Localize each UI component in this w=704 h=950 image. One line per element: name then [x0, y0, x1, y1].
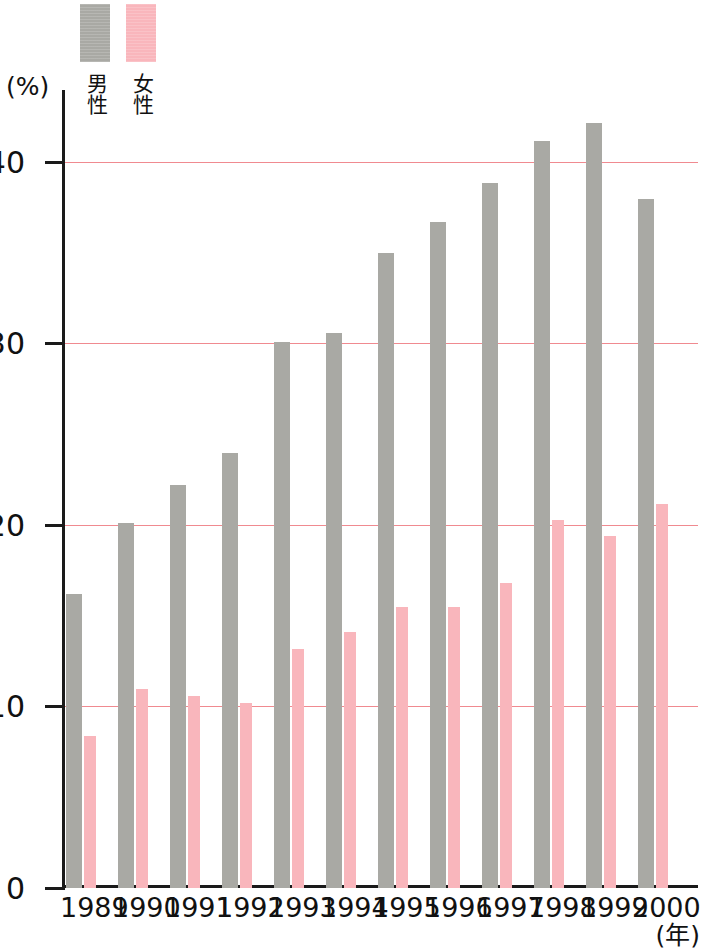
y-axis-unit-label: (%) — [6, 72, 49, 101]
bar-female-1996 — [448, 607, 460, 888]
bar-male-1995 — [378, 253, 394, 888]
x-tick-label-1998: 1998 — [528, 892, 584, 923]
bar-male-1992 — [222, 453, 238, 888]
bar-group-1998: 1998 — [532, 90, 584, 888]
bar-group-1999: 1999 — [584, 90, 636, 888]
x-tick-label-1996: 1996 — [424, 892, 480, 923]
bar-female-1999 — [604, 536, 616, 888]
bar-female-1990 — [136, 689, 148, 889]
bar-group-1989: 1989 — [64, 90, 116, 888]
bar-male-1994 — [326, 333, 342, 888]
bar-female-2000 — [656, 504, 668, 888]
y-tick-label-20: 20 — [0, 507, 25, 542]
bar-female-1995 — [396, 607, 408, 888]
bar-group-1991: 1991 — [168, 90, 220, 888]
x-tick-label-1993: 1993 — [268, 892, 324, 923]
bar-chart: 男性 女性 (%) (年) 010203040 1989199019911992… — [0, 0, 704, 950]
female-swatch-icon — [126, 4, 156, 62]
x-tick-label-1989: 1989 — [60, 892, 116, 923]
male-swatch-icon — [80, 4, 110, 62]
y-tick-label-0: 0 — [6, 870, 25, 905]
bar-group-1995: 1995 — [376, 90, 428, 888]
y-tick-label-10: 10 — [0, 689, 25, 724]
bar-male-1989 — [66, 594, 82, 888]
bar-group-1992: 1992 — [220, 90, 272, 888]
x-tick-label-1995: 1995 — [372, 892, 428, 923]
bar-male-1998 — [534, 141, 550, 888]
bar-group-2000: 2000 — [636, 90, 688, 888]
x-tick-label-1992: 1992 — [216, 892, 272, 923]
bars-layer: 1989199019911992199319941995199619971998… — [62, 90, 698, 888]
x-tick-label-2000: 2000 — [632, 892, 688, 923]
bar-female-1991 — [188, 696, 200, 888]
bar-male-1999 — [586, 123, 602, 888]
bar-group-1997: 1997 — [480, 90, 532, 888]
x-tick-label-1994: 1994 — [320, 892, 376, 923]
bar-male-1993 — [274, 342, 290, 888]
plot-area: 010203040 198919901991199219931994199519… — [62, 90, 698, 888]
bar-female-1989 — [84, 736, 96, 888]
y-tick-label-40: 40 — [0, 145, 25, 180]
bar-female-1993 — [292, 649, 304, 888]
bar-female-1998 — [552, 520, 564, 888]
bar-male-1996 — [430, 222, 446, 888]
y-tick-label-30: 30 — [0, 326, 25, 361]
x-tick-label-1991: 1991 — [164, 892, 220, 923]
bar-female-1997 — [500, 583, 512, 888]
bar-female-1994 — [344, 632, 356, 888]
bar-male-1991 — [170, 485, 186, 888]
x-tick-label-1990: 1990 — [112, 892, 168, 923]
bar-female-1992 — [240, 703, 252, 888]
bar-male-2000 — [638, 199, 654, 888]
bar-group-1996: 1996 — [428, 90, 480, 888]
x-tick-label-1999: 1999 — [580, 892, 636, 923]
bar-group-1993: 1993 — [272, 90, 324, 888]
bar-male-1990 — [118, 523, 134, 888]
bar-male-1997 — [482, 183, 498, 889]
x-tick-label-1997: 1997 — [476, 892, 532, 923]
bar-group-1990: 1990 — [116, 90, 168, 888]
bar-group-1994: 1994 — [324, 90, 376, 888]
